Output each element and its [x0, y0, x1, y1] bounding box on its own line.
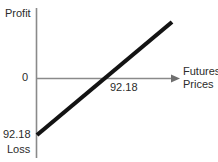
origin-tick-label: 0 [22, 71, 28, 83]
x-axis-title-line2: Prices [183, 78, 218, 91]
x-axis-arrowhead-icon [171, 75, 180, 83]
x-axis-title: Futures Prices [183, 65, 218, 91]
y-intercept-annotation: 92.18 [3, 128, 31, 140]
breakeven-annotation: 92.18 [110, 81, 138, 93]
futures-payoff-diagram: Profit 0 Futures Prices 92.18 92.18 Loss [0, 0, 218, 162]
x-axis-title-line1: Futures [183, 65, 218, 78]
y-axis-title: Profit [5, 7, 31, 19]
y-axis-negative-title: Loss [7, 143, 30, 155]
